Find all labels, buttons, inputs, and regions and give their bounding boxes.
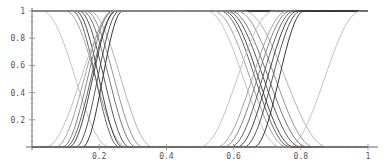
- y-ticks: 0.20.40.60.81: [11, 7, 35, 142]
- curve-g1-up-6: [32, 11, 368, 147]
- curve-g2-up-2: [32, 11, 368, 147]
- curve-g1-down-6: [32, 11, 368, 147]
- curve-g1-up-4: [32, 11, 368, 147]
- curve-g1-down-3: [32, 11, 368, 147]
- curve-g1-up-7: [32, 11, 368, 147]
- curve-g1-down-2: [32, 11, 368, 147]
- curve-g2-up-6: [32, 11, 368, 147]
- x-tick-label: 0.6: [226, 152, 241, 161]
- x-tick-label: 0.8: [294, 152, 309, 161]
- curve-g2-down-3: [32, 11, 368, 147]
- curve-g1-up-2: [32, 11, 368, 147]
- curve-g2-down-5: [32, 11, 368, 147]
- curve-g1-down-7: [32, 11, 368, 147]
- x-tick-label: 0.2: [92, 152, 107, 161]
- curve-g2-down-1: [32, 11, 368, 147]
- curve-g2-up-7: [32, 11, 368, 147]
- curve-g2-up-1: [32, 11, 368, 147]
- curve-group: [32, 11, 368, 147]
- curve-g2-up-8: [32, 11, 368, 147]
- curve-g1-down-1: [32, 11, 368, 147]
- y-tick-label: 0.4: [11, 89, 26, 98]
- curve-g1-down-4: [32, 11, 368, 147]
- curve-g2-up-4: [32, 11, 368, 147]
- curve-g1-up-5: [32, 11, 368, 147]
- curve-g2-down-4: [32, 11, 368, 147]
- curve-g2-down-6: [32, 11, 368, 147]
- y-tick-label: 0.2: [11, 116, 26, 125]
- y-tick-label: 0.6: [11, 61, 26, 70]
- y-tick-label: 1: [20, 7, 25, 16]
- y-tick-label: 0.8: [11, 34, 26, 43]
- x-tick-label: 0.4: [159, 152, 174, 161]
- curve-g1-down-8: [32, 11, 368, 147]
- curve-g2-down-7: [32, 11, 368, 147]
- curve-g1-up-3: [32, 11, 368, 147]
- curve-g2-down-8: [32, 11, 368, 147]
- curve-g2-up-5: [32, 11, 368, 147]
- axes: [26, 8, 378, 150]
- curve-g2-up-3: [32, 11, 368, 147]
- curve-g2-down-2: [32, 11, 368, 147]
- curve-g1-down-5: [32, 11, 368, 147]
- chart: 0.20.40.60.81 0.20.40.60.81: [0, 0, 388, 164]
- curve-g1-up-1: [32, 11, 368, 147]
- x-tick-label: 1: [366, 152, 371, 161]
